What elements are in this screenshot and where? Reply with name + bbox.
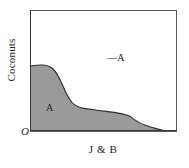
production-possibility-frontier-figure: Coconuts O A —A J & B — [0, 0, 189, 168]
x-axis-label: J & B — [30, 143, 176, 155]
y-axis-label: Coconuts — [3, 28, 19, 92]
origin-label: O — [21, 126, 29, 137]
region-not-a-label: —A — [107, 53, 125, 63]
region-a-label: A — [46, 103, 53, 113]
